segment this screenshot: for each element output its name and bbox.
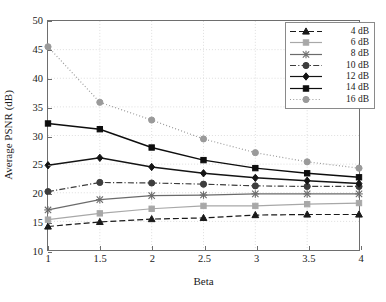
legend-label: 14 dB	[323, 83, 370, 93]
x-tick-mark	[309, 246, 310, 250]
legend-item-4-db: 4 dB	[289, 26, 370, 37]
legend-swatch	[289, 49, 323, 60]
legend-item-12-db: 12 dB	[289, 71, 370, 82]
y-tick-label: 15	[33, 218, 44, 229]
series-markers-8-db	[44, 190, 363, 214]
y-tick-label: 50	[33, 16, 44, 27]
x-tick-mark	[152, 246, 153, 250]
x-axis-label: Beta	[47, 276, 360, 287]
legend-swatch	[289, 26, 323, 37]
x-tick-mark	[361, 246, 362, 250]
legend: 4 dB6 dB8 dB10 dB12 dB14 dB16 dB	[285, 22, 375, 109]
legend-label: 8 dB	[323, 49, 370, 59]
y-tick-mark	[48, 79, 52, 80]
legend-label: 4 dB	[323, 27, 370, 37]
legend-label: 10 dB	[323, 61, 370, 71]
y-tick-label: 25	[33, 160, 44, 171]
legend-swatch	[289, 37, 323, 48]
y-tick-label: 40	[33, 74, 44, 85]
x-tick-label: 3	[254, 254, 259, 265]
y-tick-label: 30	[33, 131, 44, 142]
legend-swatch	[289, 83, 323, 94]
y-tick-label: 45	[33, 45, 44, 56]
y-tick-mark	[48, 223, 52, 224]
x-tick-label: 3.5	[302, 254, 315, 265]
x-tick-label: 2.5	[198, 254, 211, 265]
x-tick-mark	[205, 246, 206, 250]
legend-swatch	[289, 71, 323, 82]
series-markers-4-db	[45, 211, 363, 229]
x-tick-label: 1.5	[94, 254, 107, 265]
y-tick-label: 10	[33, 247, 44, 258]
chart-figure: Average PSNR (dB) Beta 10152025303540455…	[0, 0, 386, 302]
y-tick-mark	[48, 137, 52, 138]
legend-label: 16 dB	[323, 95, 370, 105]
legend-swatch	[289, 60, 323, 71]
legend-label: 12 dB	[323, 72, 370, 82]
x-tick-mark	[257, 246, 258, 250]
legend-item-8-db: 8 dB	[289, 49, 370, 60]
x-tick-label: 2	[150, 254, 155, 265]
y-tick-mark	[48, 108, 52, 109]
legend-item-16-db: 16 dB	[289, 94, 370, 105]
y-tick-mark	[48, 194, 52, 195]
legend-swatch	[289, 94, 323, 105]
x-tick-mark	[100, 246, 101, 250]
legend-item-6-db: 6 dB	[289, 37, 370, 48]
y-tick-mark	[48, 50, 52, 51]
x-tick-label: 4	[358, 254, 363, 265]
x-tick-mark	[48, 246, 49, 250]
legend-item-10-db: 10 dB	[289, 60, 370, 71]
y-tick-mark	[48, 21, 52, 22]
y-tick-label: 20	[33, 189, 44, 200]
x-tick-label: 1	[45, 254, 50, 265]
y-tick-label: 35	[33, 102, 44, 113]
legend-item-14-db: 14 dB	[289, 82, 370, 93]
y-tick-mark	[48, 165, 52, 166]
y-axis-label: Average PSNR (dB)	[3, 90, 14, 180]
legend-label: 6 dB	[323, 38, 370, 48]
